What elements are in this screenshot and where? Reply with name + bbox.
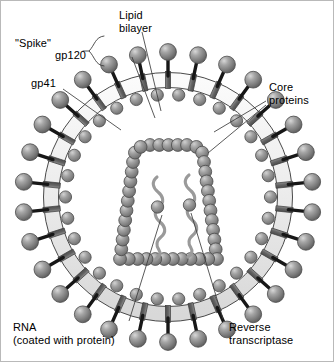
matrix-sphere (256, 233, 268, 245)
matrix-sphere (245, 251, 257, 263)
reverse-transcriptase-spheres (151, 199, 195, 213)
label-spike: "Spike" (15, 37, 51, 50)
label-gp41: gp41 (31, 77, 56, 90)
spike-stalk-gp41 (258, 278, 271, 289)
spike-head-gp120 (15, 204, 32, 221)
core-protein-shell (114, 139, 224, 266)
spike-head-gp120 (190, 47, 207, 64)
matrix-sphere (173, 293, 185, 305)
matrix-sphere (111, 102, 123, 114)
spike-head-gp120 (298, 144, 315, 161)
matrix-sphere (59, 191, 71, 203)
spike-stalk-gp41 (65, 105, 78, 116)
matrix-sphere (256, 149, 268, 161)
spike-head-gp120 (304, 173, 321, 190)
matrix-sphere (173, 89, 185, 101)
matrix-sphere (151, 293, 163, 305)
spike-head-gp120 (34, 116, 51, 133)
label-rna: RNA (coated with protein) (13, 321, 115, 347)
spike-head-gp120 (129, 47, 146, 64)
spike-head-gp120 (304, 204, 321, 221)
matrix-sphere (130, 93, 142, 105)
spike-head-gp120 (101, 56, 118, 73)
leader-lipid-bilayer (142, 32, 161, 111)
spike-stalk-gp41 (31, 210, 48, 212)
spike-head-gp120 (52, 92, 69, 109)
spike-head-gp120 (267, 286, 284, 303)
spike-head-gp120 (52, 286, 69, 303)
matrix-sphere (79, 251, 91, 263)
core-protein-bead (134, 141, 147, 154)
label-reverse-transcriptase: Reverse transcriptase (229, 321, 293, 347)
diagram-stage: "Spike" gp120 gp41 Lipid bilayer Core pr… (1, 1, 333, 361)
label-gp120: gp120 (55, 49, 86, 62)
matrix-sphere (230, 267, 242, 279)
matrix-sphere (262, 170, 274, 182)
matrix-sphere (213, 102, 225, 114)
spike-head-gp120 (74, 71, 91, 88)
matrix-sphere (194, 93, 206, 105)
spike-head-gp120 (190, 330, 207, 347)
spike-stalk-gp41 (65, 278, 78, 289)
spike-head-gp120 (160, 44, 177, 61)
matrix-sphere (245, 131, 257, 143)
lipid-bilayer (44, 73, 293, 322)
spike-head-gp120 (219, 56, 236, 73)
spike-head-gp120 (15, 173, 32, 190)
matrix-protein-spheres (59, 89, 276, 305)
label-lipid-bilayer: Lipid bilayer (119, 9, 152, 35)
spike-stalk-gp41 (31, 183, 48, 185)
label-core-proteins: Core proteins (269, 81, 309, 107)
hiv-virion-figure: "Spike" gp120 gp41 Lipid bilayer Core pr… (0, 0, 334, 362)
viral-rna-strands (153, 175, 196, 259)
spike-head-gp120 (22, 144, 39, 161)
spike-head-gp120 (285, 261, 302, 278)
matrix-sphere (93, 267, 105, 279)
matrix-sphere (62, 170, 74, 182)
matrix-sphere (62, 212, 74, 224)
matrix-sphere (194, 288, 206, 300)
spike-head-gp120 (285, 116, 302, 133)
spike-head-gp120 (298, 233, 315, 250)
spike-head-gp120 (22, 233, 39, 250)
spike-stalk-gp41 (288, 183, 305, 185)
spike-head-gp120 (34, 261, 51, 278)
spike-head-gp120 (129, 330, 146, 347)
spike-head-gp120 (160, 334, 177, 351)
matrix-sphere (68, 233, 80, 245)
matrix-sphere (264, 191, 276, 203)
matrix-sphere (68, 149, 80, 161)
matrix-sphere (93, 115, 105, 127)
matrix-sphere (79, 131, 91, 143)
spike-head-gp120 (245, 71, 262, 88)
matrix-sphere (262, 212, 274, 224)
matrix-sphere (111, 280, 123, 292)
virion-illustration (1, 1, 334, 362)
matrix-sphere (213, 280, 225, 292)
spike-stalk-gp41 (288, 210, 305, 212)
